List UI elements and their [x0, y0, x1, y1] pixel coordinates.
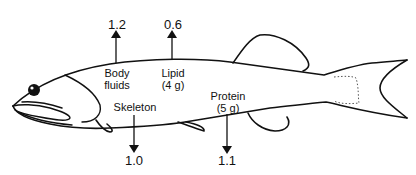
value-protein: 1.1 [214, 154, 240, 168]
label-protein-line2: (5 g) [208, 102, 248, 114]
caudal-dotted-outline [334, 76, 359, 103]
value-lipid: 0.6 [160, 18, 186, 32]
value-skeleton: 1.0 [121, 154, 147, 168]
label-protein-line1: Protein [208, 90, 248, 102]
label-lipid: Lipid (4 g) [156, 67, 190, 91]
fish-outline [13, 35, 407, 132]
label-protein: Protein (5 g) [208, 90, 248, 114]
value-body-fluids: 1.2 [104, 18, 130, 32]
label-body-fluids-line2: fluids [98, 79, 136, 91]
eye-icon [28, 84, 40, 96]
label-lipid-line1: Lipid [156, 67, 190, 79]
label-skeleton-line1: Skeleton [110, 101, 160, 113]
label-lipid-line2: (4 g) [156, 79, 190, 91]
label-skeleton: Skeleton [110, 101, 160, 113]
label-body-fluids-line1: Body [98, 67, 136, 79]
fish-diagram [0, 0, 416, 175]
label-body-fluids: Body fluids [98, 67, 136, 91]
